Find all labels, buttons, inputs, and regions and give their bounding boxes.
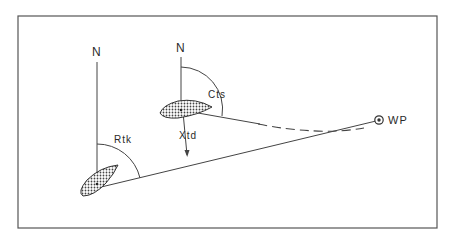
boat-current-icon [160, 100, 212, 118]
north-label-start: N [92, 45, 101, 59]
cts-label: Cts [208, 89, 226, 100]
waypoint-label: WP [388, 114, 408, 126]
xtd-arrow-icon [185, 150, 190, 157]
north-label-current: N [176, 41, 185, 55]
xtd-label: Xtd [179, 130, 197, 141]
rtk-label: Rtk [114, 134, 132, 145]
boat-start-icon [81, 165, 118, 196]
navigation-diagram: N N Rtk Cts Xtd WP [0, 0, 457, 242]
diagram-frame [18, 16, 437, 228]
